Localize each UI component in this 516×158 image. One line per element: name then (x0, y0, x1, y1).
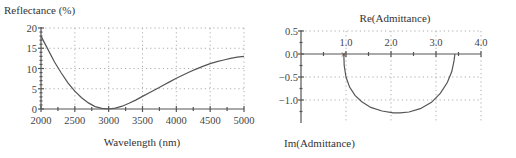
admittance-locus-curve (344, 54, 455, 113)
admittance-x-axis-label: Re(Admittance) (360, 12, 431, 25)
admittance-x-tick-label: 3.0 (429, 37, 442, 48)
reflectance-chart: 051015202000250030003500400045005000 Ref… (4, 4, 255, 149)
start-point-marker: × (341, 49, 347, 60)
reflectance-y-tick-label: 0 (32, 104, 37, 115)
reflectance-x-tick-label: 3000 (98, 115, 119, 126)
reflectance-x-tick-label: 2500 (64, 115, 85, 126)
admittance-ticks: 0.50.0−0.5−1.01.02.03.04.0 (279, 26, 488, 106)
reflectance-y-tick-label: 5 (32, 84, 37, 95)
admittance-x-tick-label: 2.0 (384, 37, 397, 48)
admittance-x-tick-label: 4.0 (474, 37, 487, 48)
reflectance-axes (38, 27, 244, 112)
admittance-chart: 0.50.0−0.5−1.01.02.03.04.0 × Re(Admittan… (279, 12, 488, 150)
reflectance-x-tick-label: 5000 (234, 115, 255, 126)
admittance-y-tick-label: 0.0 (285, 49, 298, 60)
reflectance-x-axis-label: Wavelength (nm) (104, 136, 181, 149)
reflectance-curve (41, 36, 244, 109)
reflectance-x-tick-label: 3500 (132, 115, 153, 126)
admittance-y-tick-label: −1.0 (279, 95, 298, 106)
reflectance-x-tick-label: 4000 (166, 115, 187, 126)
reflectance-x-tick-label: 4500 (200, 115, 221, 126)
admittance-x-tick-label: 1.0 (339, 37, 352, 48)
reflectance-y-tick-label: 10 (27, 64, 38, 75)
admittance-y-tick-label: 0.5 (285, 26, 298, 37)
reflectance-y-axis-label: Reflectance (%) (4, 4, 75, 17)
reflectance-y-tick-label: 15 (27, 43, 38, 54)
reflectance-ticks: 051015202000250030003500400045005000 (27, 23, 255, 126)
reflectance-x-tick-label: 2000 (31, 115, 52, 126)
admittance-y-axis-label: Im(Admittance) (284, 137, 355, 150)
figure: 051015202000250030003500400045005000 Ref… (0, 0, 516, 158)
reflectance-y-tick-label: 20 (27, 23, 38, 34)
admittance-y-tick-label: −0.5 (279, 72, 298, 83)
